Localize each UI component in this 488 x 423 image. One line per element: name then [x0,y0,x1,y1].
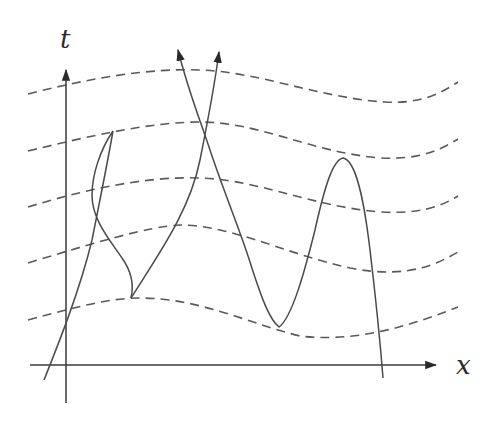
zigzag-worldline-left [44,131,132,380]
dashed-surface-1 [28,70,458,103]
dashed-surface-5 [28,298,458,338]
dashed-surface-2 [28,122,458,158]
crossing-worldline-arrow-left [178,50,383,378]
worldlines [44,50,383,380]
x-axis-label: x [456,352,471,378]
crossing-worldline-arrow-right [131,52,219,298]
spacetime-diagram [0,0,488,423]
axes [30,70,436,403]
dashed-surface-4 [28,225,458,272]
t-axis-label: t [60,26,70,52]
